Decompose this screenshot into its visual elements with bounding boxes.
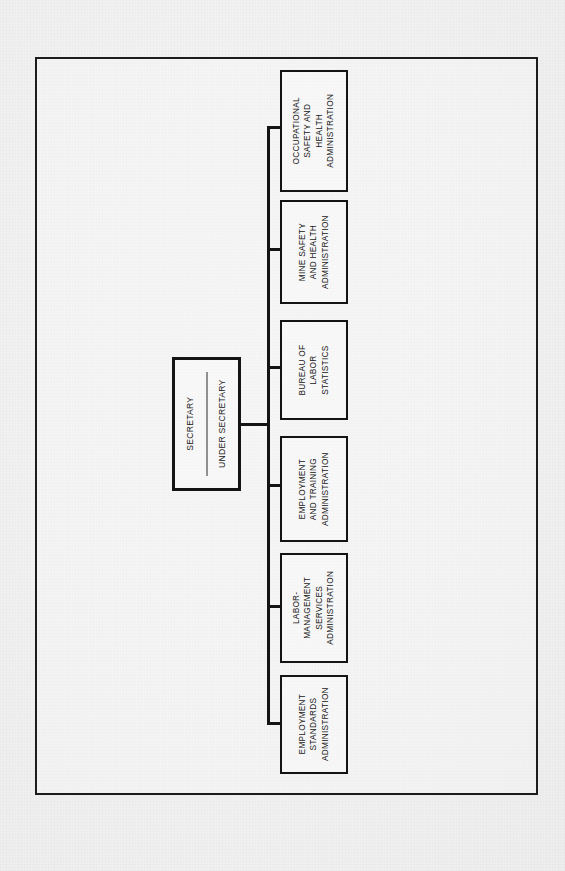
msha-line-1: MINE SAFETY: [297, 215, 308, 289]
org-node-bls-label: BUREAU OF LABOR STATISTICS: [297, 345, 331, 396]
osha-line-2: SAFETY AND: [303, 94, 314, 168]
under-secretary-label: UNDER SECRETARY: [217, 380, 228, 468]
org-node-esa-label: EMPLOYMENT STANDARDS ADMINISTRATION: [297, 688, 331, 762]
osha-line-4: ADMINISTRATION: [325, 94, 336, 168]
bls-line-1: BUREAU OF: [297, 345, 308, 396]
under-secretary-title-cell: UNDER SECRETARY: [207, 360, 239, 488]
org-node-eta-label: EMPLOYMENT AND TRAINING ADMINISTRATION: [297, 452, 331, 526]
org-node-msha[interactable]: MINE SAFETY AND HEALTH ADMINISTRATION: [280, 200, 348, 304]
secretary-title-cell: SECRETARY: [175, 360, 207, 488]
connector-secretary-to-bus: [241, 423, 268, 426]
org-node-lmsa[interactable]: LABOR- MANAGEMENT SERVICES ADMINISTRATIO…: [280, 553, 348, 663]
connector-stub-lmsa: [267, 605, 281, 608]
msha-line-3: ADMINISTRATION: [320, 215, 331, 289]
bls-line-2: LABOR: [308, 345, 319, 396]
eta-line-2: AND TRAINING: [308, 452, 319, 526]
esa-line-1: EMPLOYMENT: [297, 688, 308, 762]
org-node-eta[interactable]: EMPLOYMENT AND TRAINING ADMINISTRATION: [280, 436, 348, 542]
org-node-lmsa-label: LABOR- MANAGEMENT SERVICES ADMINISTRATIO…: [291, 571, 337, 645]
org-node-secretary[interactable]: SECRETARY UNDER SECRETARY: [172, 357, 241, 491]
lmsa-line-2: MANAGEMENT: [303, 571, 314, 645]
esa-line-3: ADMINISTRATION: [320, 688, 331, 762]
connector-stub-msha: [267, 248, 281, 251]
osha-line-3: HEALTH: [314, 94, 325, 168]
bls-line-3: STATISTICS: [320, 345, 331, 396]
msha-line-2: AND HEALTH: [308, 215, 319, 289]
osha-line-1: OCCUPATIONAL: [291, 94, 302, 168]
chart-outer-frame: SECRETARY UNDER SECRETARY OCCUPATIONAL S…: [35, 57, 538, 795]
connector-stub-osha: [267, 126, 281, 129]
esa-line-2: STANDARDS: [308, 688, 319, 762]
org-node-esa[interactable]: EMPLOYMENT STANDARDS ADMINISTRATION: [280, 675, 348, 774]
org-node-osha-label: OCCUPATIONAL SAFETY AND HEALTH ADMINISTR…: [291, 94, 337, 168]
lmsa-line-4: ADMINISTRATION: [325, 571, 336, 645]
org-node-osha[interactable]: OCCUPATIONAL SAFETY AND HEALTH ADMINISTR…: [280, 70, 348, 192]
connector-stub-eta: [267, 484, 281, 487]
lmsa-line-1: LABOR-: [291, 571, 302, 645]
connector-stub-bls: [267, 366, 281, 369]
org-node-bls[interactable]: BUREAU OF LABOR STATISTICS: [280, 320, 348, 420]
eta-line-1: EMPLOYMENT: [297, 452, 308, 526]
connector-stub-esa: [267, 722, 281, 725]
eta-line-3: ADMINISTRATION: [320, 452, 331, 526]
org-node-msha-label: MINE SAFETY AND HEALTH ADMINISTRATION: [297, 215, 331, 289]
secretary-label: SECRETARY: [185, 397, 196, 451]
lmsa-line-3: SERVICES: [314, 571, 325, 645]
